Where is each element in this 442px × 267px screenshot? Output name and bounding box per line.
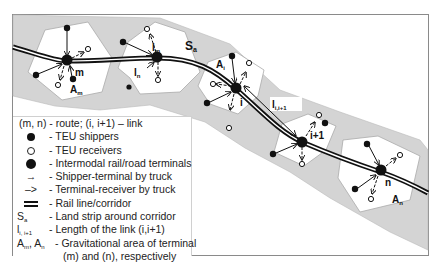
legend-item-strip: Sa - Land strip around corridor (13, 210, 191, 223)
label-terminal-i-plus-1: i+1 (310, 130, 325, 141)
legend: (m, n) - route; (i, i+1) – link - TEU sh… (13, 116, 192, 256)
solid-arrow-icon: → (13, 170, 49, 183)
filled-dot-icon (27, 133, 35, 141)
legend-item-link-length: li, i+1 - Length of the link (i,i+1) (13, 223, 191, 236)
label-terminal-m: m (75, 67, 84, 78)
label-terminal-n: n (385, 177, 391, 188)
rail-line-icon (24, 201, 38, 207)
legend-item-shippers: - TEU shippers (13, 130, 191, 143)
large-dot-icon (26, 159, 36, 169)
label-terminal-i: i (240, 97, 243, 108)
legend-item-area-cont: (m) and (n), respectively (13, 250, 191, 263)
legend-item-receivers: - TEU receivers (13, 144, 191, 157)
legend-item-terminal-receiver: –> - Terminal-receiver by truck (13, 183, 191, 196)
legend-header: (m, n) - route; (i, i+1) – link (13, 117, 191, 130)
legend-item-terminals: - Intermodal rail/road terminals (13, 157, 191, 170)
legend-item-area: Am, An - Gravitational area of terminal (13, 237, 191, 250)
legend-item-shipper-terminal: → - Shipper-terminal by truck (13, 170, 191, 183)
open-dot-icon (27, 147, 35, 155)
dashed-arrow-icon: –> (13, 183, 49, 196)
legend-item-rail: - Rail line/corridor (13, 197, 191, 210)
